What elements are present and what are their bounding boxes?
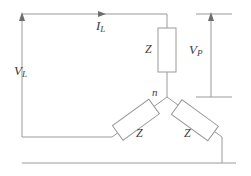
neutral-node-label: n	[152, 87, 158, 98]
line-current-label: IL	[96, 19, 105, 34]
top-conductor-group	[22, 11, 167, 17]
circuit-schematic-svg	[0, 0, 251, 176]
right-branch-group	[167, 97, 222, 163]
line-voltage-arrowhead	[19, 12, 25, 21]
line-voltage-subscript: L	[22, 69, 27, 79]
line-current-subscript: L	[100, 24, 105, 34]
impedance-right-body	[171, 100, 218, 141]
line-voltage-symbol: V	[14, 63, 22, 78]
phase-voltage-label: VP	[189, 43, 203, 58]
phase-voltage-arrowhead	[208, 12, 214, 21]
line-voltage-label: VL	[14, 64, 27, 79]
impedance-right-label: Z	[184, 127, 191, 139]
phase-voltage-subscript: P	[197, 48, 203, 58]
top-branch-group	[158, 14, 176, 97]
impedance-left-label: Z	[136, 127, 143, 139]
impedance-top-label: Z	[145, 43, 152, 55]
circuit-diagram-figure: IL VL VP n Z Z Z	[0, 0, 251, 176]
line-current-arrowhead	[98, 11, 106, 17]
phase-voltage-symbol: V	[189, 42, 197, 57]
impedance-top-body	[158, 28, 176, 72]
